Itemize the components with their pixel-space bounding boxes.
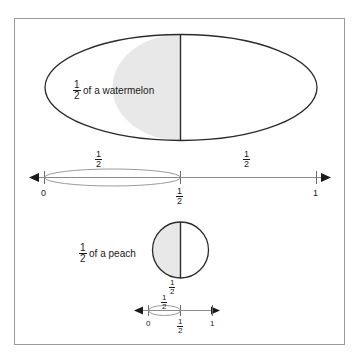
numberline-top-segment-label-right: 1 2 bbox=[243, 150, 250, 169]
numberline-top-label-1: 1 bbox=[313, 189, 318, 198]
fraction: 1 2 bbox=[243, 150, 250, 169]
peach-shaded-half bbox=[153, 222, 181, 278]
fraction-numerator: 1 bbox=[176, 187, 183, 197]
fraction-denominator: 2 bbox=[161, 303, 167, 311]
numberline-bottom-label-0: 0 bbox=[146, 320, 150, 328]
fraction-numerator: 1 bbox=[95, 150, 102, 160]
fraction-numerator: 1 bbox=[79, 243, 87, 254]
peach-below-fraction: 1 2 bbox=[169, 279, 175, 296]
watermelon-caption: 1 2 of a watermelon bbox=[73, 80, 154, 101]
peach-caption: 1 2 of a peach bbox=[79, 243, 136, 264]
numberline-bottom-label-1: 1 bbox=[210, 320, 214, 328]
fraction: 1 2 bbox=[95, 150, 102, 169]
numberline-bottom-left-arrow bbox=[134, 307, 143, 315]
peach-caption-fraction: 1 2 bbox=[79, 243, 87, 264]
numberline-bottom-segment-label: 1 2 bbox=[161, 294, 167, 311]
fraction: 1 2 bbox=[169, 279, 175, 296]
numberline-bottom-label-half: 1 2 bbox=[177, 318, 183, 335]
fraction-numerator: 1 bbox=[243, 150, 250, 160]
numberline-top-label-0: 0 bbox=[41, 189, 46, 198]
figure-canvas: 1 2 of a watermelon 1 2 1 2 0 1 2 1 1 2 … bbox=[0, 0, 361, 364]
numberline-top-right-arrow bbox=[321, 173, 331, 182]
figure-graphics bbox=[0, 0, 361, 364]
watermelon-caption-fraction: 1 2 bbox=[73, 80, 81, 101]
numberline-top-left-arrow bbox=[29, 173, 39, 182]
numberline-top-segment-label-left: 1 2 bbox=[95, 150, 102, 169]
fraction-denominator: 2 bbox=[243, 160, 250, 169]
fraction: 1 2 bbox=[161, 294, 167, 311]
fraction-denominator: 2 bbox=[95, 160, 102, 169]
fraction: 1 2 bbox=[176, 187, 183, 206]
fraction: 1 2 bbox=[177, 318, 183, 335]
fraction-denominator: 2 bbox=[79, 254, 87, 264]
fraction-numerator: 1 bbox=[73, 80, 81, 91]
fraction-denominator: 2 bbox=[73, 91, 81, 101]
watermelon-caption-text: of a watermelon bbox=[83, 85, 154, 96]
peach-caption-text: of a peach bbox=[89, 248, 136, 259]
fraction-denominator: 2 bbox=[176, 197, 183, 206]
numberline-top-label-half: 1 2 bbox=[176, 187, 183, 206]
fraction-denominator: 2 bbox=[177, 327, 183, 335]
fraction-denominator: 2 bbox=[169, 288, 175, 296]
